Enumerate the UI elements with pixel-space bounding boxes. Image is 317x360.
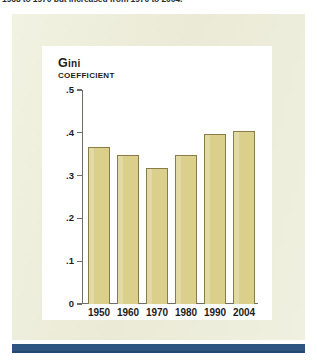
axis-title-sub: COEFFICIENT: [58, 71, 115, 81]
chart-bar: [233, 131, 255, 304]
bar-highlight: [205, 135, 210, 304]
bar-series: [83, 90, 259, 304]
caption-strip: 1968 to 1970 but increased from 1970 to …: [0, 0, 317, 7]
y-axis-label: .5: [52, 84, 74, 95]
chart-bar: [175, 155, 197, 304]
y-axis-label: 0: [52, 298, 74, 309]
bar-highlight: [234, 132, 239, 304]
y-axis-tick: [77, 132, 82, 133]
y-axis-label: .2: [52, 212, 74, 223]
footer-rule: [12, 344, 305, 353]
y-axis-tick: [77, 261, 82, 262]
chart-bar: [117, 155, 139, 304]
bar-highlight: [89, 148, 94, 304]
y-axis-tick: [77, 89, 82, 90]
footer-rule-shade: [12, 351, 305, 354]
bar-slot: [175, 90, 197, 304]
x-axis-label: 2004: [227, 307, 261, 318]
chart-bar: [204, 134, 226, 304]
axis-title-main: Gini: [58, 56, 115, 71]
bar-slot: [146, 90, 168, 304]
y-axis-tick: [77, 218, 82, 219]
caption-text: 1968 to 1970 but increased from 1970 to …: [2, 0, 182, 4]
bar-highlight: [176, 156, 181, 304]
chart-bar: [146, 168, 168, 304]
bar-highlight: [118, 156, 123, 304]
chart-axis-title: Gini COEFFICIENT: [58, 56, 115, 81]
y-axis-label: .1: [52, 255, 74, 266]
figure-panel: Gini COEFFICIENT 0.1.2.3.4.5 19501960197…: [12, 14, 305, 340]
bar-slot: [88, 90, 110, 304]
bar-slot: [233, 90, 255, 304]
chart-plot-area: Gini COEFFICIENT 0.1.2.3.4.5 19501960197…: [42, 46, 272, 320]
y-axis-label: .3: [52, 170, 74, 181]
y-axis-tick: [77, 303, 82, 304]
bar-slot: [204, 90, 226, 304]
bar-highlight: [147, 169, 152, 304]
y-axis-label: .4: [52, 127, 74, 138]
bar-slot: [117, 90, 139, 304]
y-axis-tick: [77, 175, 82, 176]
chart-bar: [88, 147, 110, 304]
